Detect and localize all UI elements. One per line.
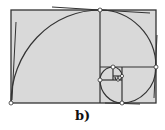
golden-rectangle [11, 10, 156, 103]
figure-label: b) [0, 108, 165, 123]
